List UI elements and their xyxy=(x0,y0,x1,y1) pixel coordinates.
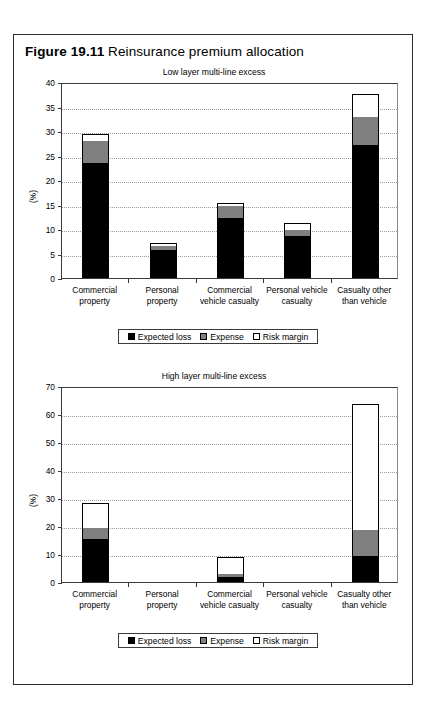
plot-wrap-low-layer: (%) CommercialpropertyPersonalpropertyCo… xyxy=(14,81,414,301)
legend-item-label: Risk margin xyxy=(263,332,308,342)
bar-high-layer-4[interactable] xyxy=(352,404,379,582)
legend-item-label: Expected loss xyxy=(138,332,192,342)
filled-gray-square-icon xyxy=(200,637,207,644)
outlined-white-square-icon xyxy=(253,333,260,340)
y-axis-tick-mark xyxy=(58,157,62,158)
bar-low-layer-2[interactable] xyxy=(217,203,244,278)
segment-risk-margin xyxy=(217,557,244,574)
legend-item[interactable]: Expense xyxy=(200,332,243,342)
segment-expense xyxy=(217,206,244,218)
y-axis-tick-mark xyxy=(58,108,62,109)
x-axis-category-line: than vehicle xyxy=(325,296,404,307)
filled-gray-square-icon xyxy=(200,333,207,340)
y-axis-tick-mark xyxy=(58,206,62,207)
gridline xyxy=(62,158,397,159)
plot-wrap-high-layer: (%) CommercialpropertyPersonalpropertyCo… xyxy=(14,385,414,605)
filled-black-square-icon xyxy=(128,333,135,340)
bar-low-layer-3[interactable] xyxy=(284,223,311,278)
gridline xyxy=(62,500,397,501)
chart-title-low-layer: Low layer multi-line excess xyxy=(14,67,414,77)
y-axis-tick-label: 30 xyxy=(46,495,55,503)
gridline xyxy=(62,528,397,529)
legend-item[interactable]: Expected loss xyxy=(128,636,192,646)
legend-item[interactable]: Risk margin xyxy=(253,332,308,342)
y-axis-tick-mark xyxy=(58,230,62,231)
y-axis-tick-mark xyxy=(58,499,62,500)
figure-frame: Figure 19.11 Reinsurance premium allocat… xyxy=(13,34,413,685)
legend-item-label: Risk margin xyxy=(263,636,308,646)
legend-item[interactable]: Expense xyxy=(200,636,243,646)
y-axis-tick-mark xyxy=(58,132,62,133)
gridline xyxy=(62,182,397,183)
segment-risk-margin xyxy=(352,404,379,530)
legend-item[interactable]: Risk margin xyxy=(253,636,308,646)
y-axis-tick-label: 35 xyxy=(46,104,55,112)
y-axis-tick-label: 60 xyxy=(46,411,55,419)
legend-item-label: Expense xyxy=(210,636,243,646)
bar-low-layer-1[interactable] xyxy=(150,243,177,278)
gridline xyxy=(62,416,397,417)
segment-risk-margin xyxy=(82,503,109,528)
y-axis-tick-mark xyxy=(58,471,62,472)
segment-expected-loss xyxy=(82,539,109,582)
y-axis-tick-label: 20 xyxy=(46,177,55,185)
gridline xyxy=(62,109,397,110)
gridline xyxy=(62,133,397,134)
y-axis-tick-mark xyxy=(58,527,62,528)
legend-item-label: Expected loss xyxy=(138,636,192,646)
y-axis-tick-label: 20 xyxy=(46,523,55,531)
legend-low-layer: Expected lossExpenseRisk margin xyxy=(118,329,318,344)
y-axis-tick-mark xyxy=(58,255,62,256)
y-axis-tick-mark xyxy=(58,181,62,182)
x-axis-tick-mark xyxy=(128,583,129,587)
segment-expense xyxy=(352,530,379,556)
x-axis-tick-mark xyxy=(331,279,332,283)
y-axis-tick-mark xyxy=(58,443,62,444)
figure-number: Figure 19.11 xyxy=(25,44,104,59)
bar-high-layer-0[interactable] xyxy=(82,503,109,582)
bar-high-layer-2[interactable] xyxy=(217,557,244,582)
x-axis-category-line: Casualty other xyxy=(325,285,404,296)
y-axis-tick-label: 10 xyxy=(46,226,55,234)
x-axis-tick-mark xyxy=(128,279,129,283)
segment-expected-loss xyxy=(82,163,109,278)
y-axis-tick-label: 50 xyxy=(46,439,55,447)
y-axis-tick-label: 40 xyxy=(46,79,55,87)
y-axis-tick-label: 10 xyxy=(46,551,55,559)
figure-caption: Reinsurance premium allocation xyxy=(108,44,304,59)
segment-expected-loss xyxy=(217,577,244,582)
segment-expected-loss xyxy=(150,250,177,278)
plot-area-low-layer xyxy=(61,83,398,279)
segment-expected-loss xyxy=(217,218,244,278)
gridline xyxy=(62,472,397,473)
y-axis-label-low-layer: (%) xyxy=(28,190,38,203)
y-axis-tick-mark xyxy=(58,583,62,584)
segment-risk-margin xyxy=(352,94,379,118)
gridline xyxy=(62,444,397,445)
bar-low-layer-4[interactable] xyxy=(352,94,379,278)
y-axis-tick-label: 0 xyxy=(50,579,55,587)
chart-title-high-layer: High layer multi-line excess xyxy=(14,371,414,381)
y-axis-tick-mark xyxy=(58,279,62,280)
segment-expected-loss xyxy=(284,236,311,278)
figure-page: Figure 19.11 Reinsurance premium allocat… xyxy=(0,0,427,722)
y-axis-tick-mark xyxy=(58,415,62,416)
segment-expense xyxy=(82,528,109,540)
segment-expected-loss xyxy=(352,556,379,582)
x-axis-category-label: Casualty otherthan vehicle xyxy=(325,589,404,610)
y-axis-tick-mark xyxy=(58,387,62,388)
y-axis-tick-label: 70 xyxy=(46,383,55,391)
x-axis-tick-mark xyxy=(331,583,332,587)
legend-high-layer: Expected lossExpenseRisk margin xyxy=(118,633,318,648)
y-axis-tick-label: 25 xyxy=(46,153,55,161)
x-axis-category-label: Casualty otherthan vehicle xyxy=(325,285,404,306)
legend-item-label: Expense xyxy=(210,332,243,342)
legend-item[interactable]: Expected loss xyxy=(128,332,192,342)
x-axis-tick-mark xyxy=(196,279,197,283)
y-axis-tick-mark xyxy=(58,83,62,84)
bar-low-layer-0[interactable] xyxy=(82,134,109,278)
segment-risk-margin xyxy=(284,223,311,230)
x-axis-tick-mark xyxy=(196,583,197,587)
y-axis-label-high-layer: (%) xyxy=(28,494,38,507)
figure-title: Figure 19.11 Reinsurance premium allocat… xyxy=(25,44,304,59)
